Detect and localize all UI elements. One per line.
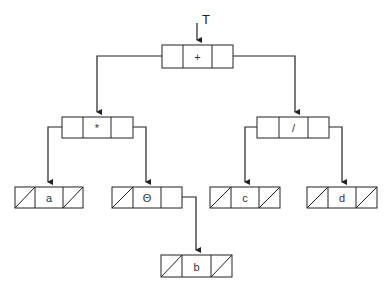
node-times: *	[62, 117, 133, 138]
node-value: a	[46, 192, 53, 204]
node-a: a	[15, 187, 83, 208]
node-plus: +	[162, 45, 233, 68]
root-pointer-label: T	[202, 12, 210, 27]
node-b: b	[161, 255, 232, 277]
node-value: +	[194, 51, 200, 63]
node-d: d	[307, 187, 377, 208]
expression-tree-diagram: T + * /	[0, 0, 392, 291]
root-pointer: T	[197, 12, 210, 40]
node-value: d	[339, 192, 345, 204]
node-value: Θ	[143, 192, 152, 204]
node-c: c	[210, 187, 280, 208]
node-neg: Θ	[112, 187, 182, 208]
node-value: *	[95, 122, 100, 134]
node-value: c	[242, 192, 248, 204]
node-value: b	[193, 261, 199, 273]
edges	[48, 56, 342, 250]
node-div: /	[257, 117, 329, 138]
